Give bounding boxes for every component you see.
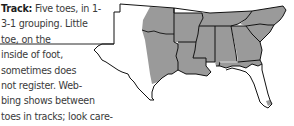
range-shading [142,6,286,106]
range-map [0,0,294,126]
